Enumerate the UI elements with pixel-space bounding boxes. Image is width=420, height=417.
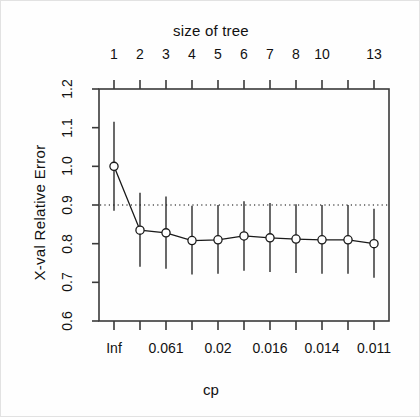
data-point-1: [136, 226, 144, 234]
data-point-0: [110, 162, 118, 170]
data-point-3: [188, 236, 196, 244]
y-tick-label-1.0: 1.0: [60, 144, 74, 188]
data-point-5: [240, 232, 248, 240]
top-axis-title: size of tree: [1, 23, 420, 38]
x-axis-label: cp: [1, 382, 420, 397]
bottom-tick-label-0.061: 0.061: [136, 341, 196, 355]
y-tick-label-0.9: 0.9: [60, 183, 74, 227]
bottom-tick-label-Inf: Inf: [84, 341, 144, 355]
bottom-tick-label-0.02: 0.02: [188, 341, 248, 355]
top-tick-label-10: 10: [302, 47, 342, 61]
data-point-8: [318, 236, 326, 244]
data-point-9: [344, 236, 352, 244]
data-point-6: [266, 234, 274, 242]
data-point-7: [292, 235, 300, 243]
y-tick-label-1.2: 1.2: [60, 67, 74, 111]
y-axis-label: X-val Relative Error: [32, 98, 47, 328]
bottom-tick-label-0.011: 0.011: [344, 341, 404, 355]
figure-canvas: size of tree cp X-val Relative Error 123…: [0, 0, 420, 417]
data-point-4: [214, 236, 222, 244]
y-tick-label-0.6: 0.6: [60, 299, 74, 343]
data-point-10: [370, 240, 378, 248]
top-tick-label-13: 13: [354, 47, 394, 61]
bottom-tick-label-0.016: 0.016: [240, 341, 300, 355]
bottom-tick-label-0.014: 0.014: [292, 341, 352, 355]
data-point-2: [162, 229, 170, 237]
y-tick-label-0.7: 0.7: [60, 260, 74, 304]
